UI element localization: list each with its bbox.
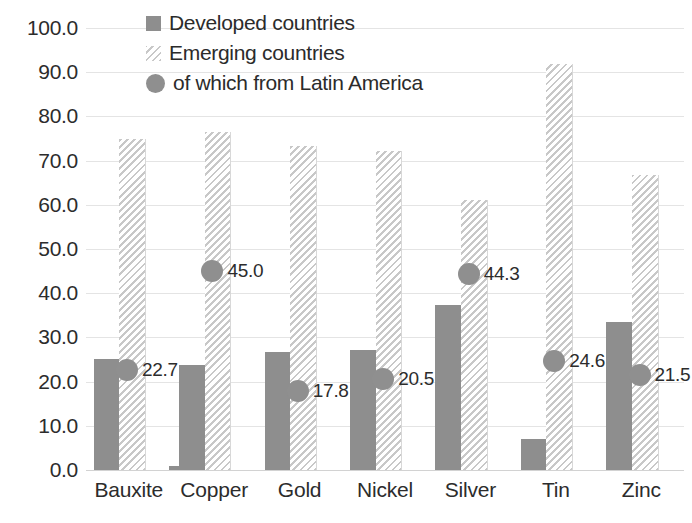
- bar-group: 21.5: [599, 28, 684, 470]
- y-axis-tick-label: 10.0: [0, 414, 78, 438]
- y-axis-tick-label: 70.0: [0, 149, 78, 173]
- bar-developed: [179, 365, 205, 470]
- bar-emerging: [546, 64, 573, 470]
- x-axis-tick-label: Silver: [428, 478, 513, 502]
- square-solid-icon: [146, 16, 161, 31]
- y-axis-tick-label: 100.0: [0, 16, 78, 40]
- bar-developed: [350, 350, 376, 470]
- square-hatched-icon: [146, 46, 161, 61]
- legend-label-emerging: Emerging countries: [169, 41, 345, 65]
- data-point-latin-america: [543, 350, 565, 372]
- bar-emerging: [290, 146, 317, 470]
- data-label-latin-america: 21.5: [655, 364, 691, 386]
- x-axis-tick-label: Gold: [257, 478, 342, 502]
- chart-container: 0.010.020.030.040.050.060.070.080.090.01…: [0, 0, 692, 523]
- x-axis-labels: BauxiteCopperGoldNickelSilverTinZinc: [86, 478, 684, 518]
- y-axis-tick-label: 80.0: [0, 104, 78, 128]
- bar-developed: [521, 439, 547, 470]
- bar-developed: [435, 305, 461, 470]
- bar-emerging: [205, 132, 232, 470]
- y-axis-tick-label: 30.0: [0, 325, 78, 349]
- legend-item-latin-america: of which from Latin America: [146, 70, 423, 96]
- x-axis-tick-label: Tin: [513, 478, 598, 502]
- bar-developed: [606, 322, 632, 471]
- bar-emerging: [632, 175, 659, 470]
- legend-label-developed: Developed countries: [169, 11, 355, 35]
- bar-developed: [94, 359, 120, 470]
- y-axis-tick-label: 90.0: [0, 60, 78, 84]
- gridline: [86, 470, 684, 471]
- y-axis-tick-label: 60.0: [0, 193, 78, 217]
- data-point-latin-america: [372, 368, 394, 390]
- legend-label-latin-america: of which from Latin America: [173, 71, 423, 95]
- chart-legend: Developed countries Emerging countries o…: [146, 10, 423, 96]
- bar-emerging: [461, 200, 488, 471]
- y-axis-tick-label: 20.0: [0, 370, 78, 394]
- bar-developed: [265, 352, 291, 470]
- bar-group: 44.3: [428, 28, 513, 470]
- data-point-latin-america: [629, 364, 651, 386]
- bar-emerging: [376, 151, 403, 470]
- y-axis-tick-label: 0.0: [0, 458, 78, 482]
- x-axis-tick-label: Bauxite: [86, 478, 171, 502]
- data-point-latin-america: [287, 380, 309, 402]
- x-axis-tick-label: Copper: [171, 478, 256, 502]
- y-axis-tick-label: 50.0: [0, 237, 78, 261]
- data-point-latin-america: [116, 359, 138, 381]
- y-axis-labels: 0.010.020.030.040.050.060.070.080.090.01…: [0, 28, 78, 470]
- y-axis-tick-label: 40.0: [0, 281, 78, 305]
- bar-group: 24.6: [513, 28, 598, 470]
- x-axis-tick-label: Nickel: [342, 478, 427, 502]
- data-point-latin-america: [458, 263, 480, 285]
- legend-item-emerging: Emerging countries: [146, 40, 423, 66]
- legend-item-developed: Developed countries: [146, 10, 423, 36]
- bar-developed-sliver: [169, 466, 179, 470]
- data-point-latin-america: [201, 260, 223, 282]
- circle-dot-icon: [146, 74, 165, 93]
- x-axis-tick-label: Zinc: [599, 478, 684, 502]
- bar-emerging: [119, 139, 146, 470]
